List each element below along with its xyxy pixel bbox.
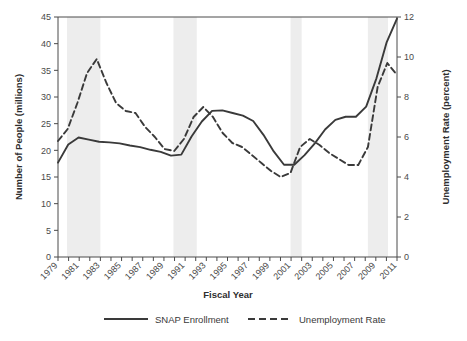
legend-label-unemployment-rate: Unemployment Rate [299,314,386,325]
right-axis-tick-label: 8 [404,92,409,102]
right-axis-tick-label: 12 [404,12,414,22]
recession-band [291,17,302,257]
left-axis-tick-label: 25 [41,119,51,129]
dual-axis-line-chart: 051015202530354045 024681012 19791981198… [0,0,467,341]
left-axis-tick-label: 5 [46,226,51,236]
legend-label-snap-enrollment: SNAP Enrollment [155,314,229,325]
left-axis-tick-label: 20 [41,146,51,156]
right-axis-title: Unemployment Rate (percent) [440,69,451,204]
left-axis-tick-label: 10 [41,199,51,209]
left-axis-tick-label: 40 [41,39,51,49]
right-axis-tick-label: 6 [404,132,409,142]
recession-band [368,17,388,257]
left-axis-tick-label: 15 [41,172,51,182]
recession-band [67,17,100,257]
left-axis-tick-label: 35 [41,66,51,76]
right-axis-tick-label: 2 [404,212,409,222]
left-axis-tick-label: 30 [41,92,51,102]
chart-figure: 051015202530354045 024681012 19791981198… [0,0,467,341]
recession-band [173,17,196,257]
left-axis-title: Number of People (millions) [13,74,24,200]
right-axis-tick-label: 4 [404,172,409,182]
left-axis-tick-label: 45 [41,12,51,22]
x-axis-title: Fiscal Year [203,289,253,300]
right-axis-tick-label: 10 [404,52,414,62]
right-axis-tick-label: 0 [404,252,409,262]
left-axis-tick-label: 0 [46,252,51,262]
